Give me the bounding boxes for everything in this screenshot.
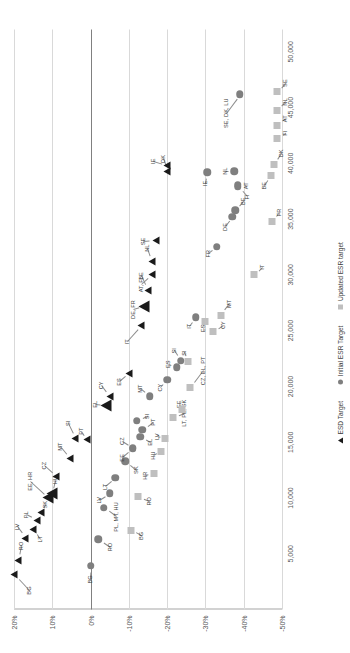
data-point-triangle[interactable] — [139, 300, 150, 312]
data-point-square[interactable] — [127, 526, 134, 533]
data-point-label: BG — [138, 531, 144, 539]
data-point-square[interactable] — [210, 328, 217, 335]
gridline — [52, 29, 53, 609]
data-point-label: BG — [26, 586, 32, 594]
data-point-circle[interactable] — [133, 417, 141, 425]
x-tick-label: 35,000 — [287, 208, 294, 229]
x-tick-label: 5,000 — [287, 544, 294, 562]
data-point-circle[interactable] — [213, 243, 221, 251]
data-point-circle[interactable] — [177, 357, 185, 365]
data-point-label: LV — [96, 496, 102, 503]
data-point-triangle[interactable] — [148, 257, 155, 265]
y-tick-label: -10% — [125, 615, 132, 631]
data-point-square[interactable] — [251, 271, 258, 278]
data-point-label: RO — [146, 497, 152, 506]
data-point-square[interactable] — [187, 384, 194, 391]
data-point-square[interactable] — [270, 160, 277, 167]
data-point-label: SI — [65, 420, 71, 426]
data-point-label: SE, DK, LU — [223, 98, 229, 128]
data-point-triangle[interactable] — [125, 369, 132, 377]
data-point-square[interactable] — [150, 469, 157, 476]
data-point-label: PT — [78, 427, 84, 434]
data-point-square[interactable] — [162, 435, 169, 442]
data-point-triangle[interactable] — [148, 270, 155, 278]
data-point-circle[interactable] — [163, 375, 171, 383]
data-point-circle[interactable] — [146, 392, 154, 400]
data-point-square[interactable] — [274, 135, 281, 142]
data-point-label: SE — [140, 237, 146, 245]
data-point-triangle[interactable] — [66, 454, 73, 462]
data-point-label: FI — [244, 194, 250, 199]
legend-item[interactable]: Initial ESR Target — [337, 325, 344, 384]
y-tick-label: -50% — [279, 615, 286, 631]
data-point-label: FR — [205, 249, 211, 257]
data-point-circle[interactable] — [236, 90, 244, 98]
data-point-label: CZ — [41, 461, 47, 469]
data-point-label: EL — [147, 438, 153, 445]
data-point-circle[interactable] — [232, 206, 240, 214]
data-point-circle[interactable] — [230, 167, 238, 175]
data-point-circle[interactable] — [94, 535, 102, 543]
data-point-triangle[interactable] — [53, 472, 60, 480]
x-tick-label: 20,000 — [287, 375, 294, 396]
x-tick-label: 40,000 — [287, 152, 294, 173]
data-point-square[interactable] — [179, 406, 186, 413]
data-point-square[interactable] — [185, 358, 192, 365]
data-point-triangle[interactable] — [106, 392, 113, 400]
data-point-square[interactable] — [267, 172, 274, 179]
data-point-square[interactable] — [135, 493, 142, 500]
data-point-label: DK — [278, 149, 284, 157]
legend-item[interactable]: Updated ESR target — [337, 242, 344, 310]
data-point-triangle[interactable] — [145, 286, 152, 294]
data-point-square[interactable] — [217, 311, 224, 318]
data-point-triangle[interactable] — [72, 434, 79, 442]
data-point-label: AT — [243, 182, 249, 189]
data-point-circle[interactable] — [139, 426, 147, 434]
rotated-figure-wrapper: 20%10%0%-10%-20%-30%-40%-50% 5,00010,000… — [0, 0, 350, 653]
gridline — [14, 29, 15, 609]
data-point-label: FI — [282, 130, 288, 135]
data-point-triangle[interactable] — [14, 556, 21, 564]
data-point-circle[interactable] — [192, 313, 200, 321]
data-point-triangle[interactable] — [138, 321, 145, 329]
data-point-square[interactable] — [169, 414, 176, 421]
data-point-triangle[interactable] — [164, 161, 171, 169]
data-point-circle[interactable] — [106, 489, 114, 497]
legend-label: Updated ESR target — [337, 242, 344, 301]
data-point-label: ES — [200, 324, 206, 332]
data-point-circle[interactable] — [234, 180, 242, 188]
data-point-label: PT — [150, 418, 156, 425]
x-tick-label: 25,000 — [287, 319, 294, 340]
data-point-triangle[interactable] — [22, 534, 29, 542]
data-point-square[interactable] — [202, 318, 209, 325]
data-point-triangle[interactable] — [33, 516, 40, 524]
data-point-label: IT — [124, 339, 130, 344]
data-point-triangle[interactable] — [152, 236, 159, 244]
data-point-triangle[interactable] — [37, 508, 44, 516]
data-point-square[interactable] — [274, 88, 281, 95]
data-point-circle[interactable] — [112, 474, 120, 482]
data-point-circle[interactable] — [87, 562, 95, 570]
legend-item[interactable]: ESD Target — [337, 400, 344, 443]
data-point-label: EE, HR — [27, 471, 33, 490]
data-point-triangle[interactable] — [83, 435, 90, 443]
data-point-label: CY — [98, 381, 104, 389]
data-point-square[interactable] — [269, 217, 276, 224]
data-point-triangle[interactable] — [30, 525, 37, 533]
data-point-label: AT — [282, 115, 288, 122]
data-point-label: SI — [144, 413, 150, 419]
data-point-triangle[interactable] — [11, 570, 18, 578]
data-point-square[interactable] — [274, 121, 281, 128]
x-tick-label: 30,000 — [287, 264, 294, 285]
data-point-circle[interactable] — [204, 168, 212, 176]
data-point-triangle[interactable] — [47, 487, 58, 499]
data-point-label: SI — [181, 350, 187, 356]
data-point-label: FR — [276, 208, 282, 216]
legend-circle-icon — [338, 379, 344, 385]
data-point-circle[interactable] — [100, 504, 108, 512]
data-point-square[interactable] — [158, 447, 165, 454]
data-point-square[interactable] — [274, 107, 281, 114]
data-point-circle[interactable] — [129, 444, 137, 452]
data-point-label: CZ — [119, 437, 125, 445]
data-point-triangle[interactable] — [100, 399, 111, 411]
